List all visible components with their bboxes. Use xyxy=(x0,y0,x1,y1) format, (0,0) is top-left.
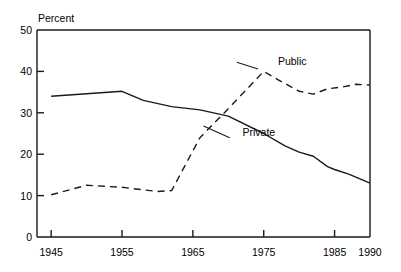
y-tick-label: 10 xyxy=(20,190,32,202)
chart-container: Percent 01020304050 19451955196519751985… xyxy=(0,0,401,272)
x-tick-label: 1975 xyxy=(252,246,276,258)
x-tick-label: 1985 xyxy=(323,246,347,258)
y-tick-label: 30 xyxy=(20,107,32,119)
x-tick-label: 1945 xyxy=(39,246,63,258)
x-tick-label: 1990 xyxy=(358,246,382,258)
chart-background xyxy=(0,0,401,272)
y-tick-label: 20 xyxy=(20,148,32,160)
y-tick-label: 0 xyxy=(26,231,32,243)
y-tick-label: 50 xyxy=(20,24,32,36)
x-tick-label: 1955 xyxy=(110,246,134,258)
y-tick-label: 40 xyxy=(20,65,32,77)
series-label-private: Private xyxy=(242,126,275,138)
line-chart: Percent 01020304050 19451955196519751985… xyxy=(0,0,401,272)
series-label-public: Public xyxy=(278,55,307,67)
x-tick-label: 1965 xyxy=(181,246,205,258)
y-axis-unit-label: Percent xyxy=(38,12,74,24)
